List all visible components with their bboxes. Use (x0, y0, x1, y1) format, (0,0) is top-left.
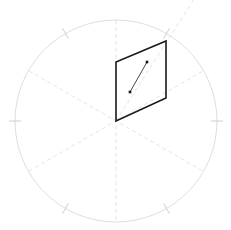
stereonet-diagram (0, 0, 231, 230)
stereonet-canvas (0, 0, 231, 230)
tick-southwest (63, 203, 69, 213)
lineation-start-marker (129, 91, 132, 94)
tick-northeast (164, 28, 170, 38)
tick-southeast (164, 203, 170, 213)
lineation-end-marker (146, 61, 149, 64)
tick-northwest (63, 28, 69, 38)
